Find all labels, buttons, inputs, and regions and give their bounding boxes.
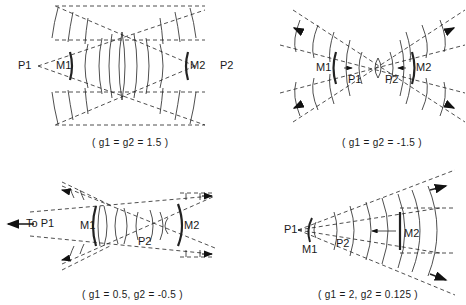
panel-d-label-p2: P2 [336, 238, 349, 249]
panel-b-label-m2: M2 [416, 62, 431, 73]
resonator-diagram [0, 0, 466, 305]
panel-a-label-p2: P2 [220, 60, 233, 71]
panel-a-label-m2: M2 [190, 60, 205, 71]
panel-d-caption: ( g1 = 2, g2 = 0.125 ) [318, 290, 418, 300]
panel-d-label-p1: P1 [284, 224, 297, 235]
panel-c-label-p2: P2 [138, 236, 151, 247]
panel-c-label-to-p1: To P1 [26, 218, 54, 229]
panel-b-caption: ( g1 = g2 = -1.5 ) [342, 138, 422, 148]
panel-b-label-m1: M1 [316, 62, 331, 73]
panel-a-label-m1: M1 [56, 60, 71, 71]
panel-c-label-m2: M2 [184, 220, 199, 231]
panel-c-label-m1: M1 [80, 220, 95, 231]
panel-c-caption: ( g1 = 0.5, g2 = -0.5 ) [82, 290, 183, 300]
panel-b-label-p2: P2 [385, 74, 398, 85]
panel-d-diagram [298, 170, 455, 295]
panel-b-diagram [280, 10, 465, 122]
panel-b-label-p1: P1 [348, 74, 361, 85]
panel-a-label-p1: P1 [18, 60, 31, 71]
panel-a-caption: ( g1 = g2 = 1.5 ) [92, 138, 168, 148]
panel-d-label-m2: M2 [404, 228, 419, 239]
panel-d-label-m1: M1 [302, 244, 317, 255]
